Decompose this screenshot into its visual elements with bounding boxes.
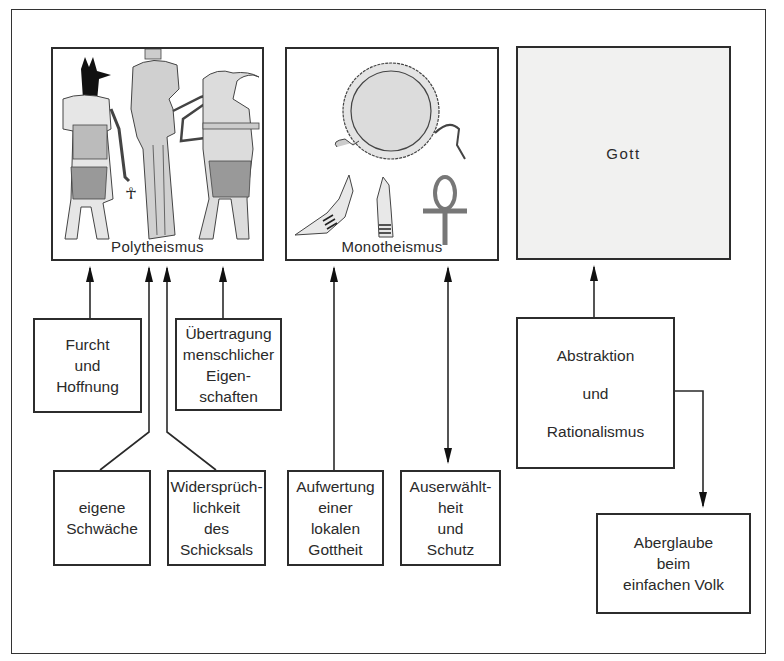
connector-lines	[0, 0, 784, 661]
edge-abstraktion-aberglaube	[675, 391, 703, 506]
edge-widerspruch-polytheismus	[167, 268, 216, 470]
edge-schwaeche-polytheismus	[100, 268, 149, 470]
